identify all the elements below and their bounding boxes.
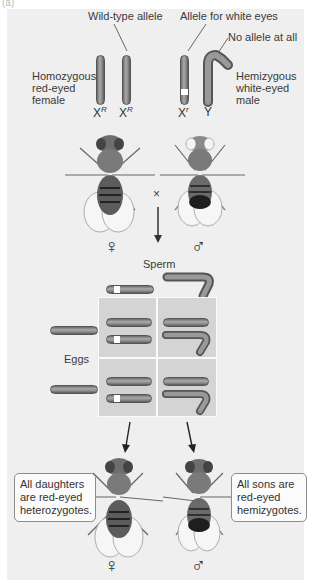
female-symbol-parent: ♀ — [104, 235, 119, 258]
male-symbol-parent: ♂ — [191, 235, 206, 258]
female-x-chromosome-2 — [122, 55, 131, 105]
white-eye-allele-band — [114, 286, 120, 293]
daughters-callout-line-2: are red-eyed — [20, 491, 90, 504]
sons-callout-line-2: red-eyed — [237, 491, 301, 504]
male-desc-line-1: Hemizygous — [236, 70, 297, 82]
white-eye-allele-band — [181, 89, 188, 95]
daughters-callout: All daughters are red-eyed heterozygotes… — [14, 473, 96, 522]
punnett-square — [98, 297, 217, 417]
male-chromosome-label-x: Xr — [178, 105, 189, 120]
white-eye-allele-band — [114, 395, 120, 402]
sperm-label: Sperm — [143, 258, 175, 270]
cross-arrow-icon — [153, 207, 163, 247]
male-fly-parent — [160, 130, 260, 240]
male-symbol-offspring: ♂ — [191, 554, 206, 577]
cell-2-1-xr-chromosome — [106, 394, 152, 403]
cell-2-2-y-chromosome — [162, 389, 212, 417]
male-desc-line-2: white-eyed — [236, 82, 297, 94]
female-desc-line-3: female — [32, 94, 96, 106]
cell-2-2-x-chromosome — [163, 377, 209, 386]
female-description: Homozygous red-eyed female — [32, 70, 96, 106]
cell-1-1-x-chromosome — [106, 318, 152, 327]
male-desc-line-3: male — [236, 94, 297, 106]
female-x-chromosome-1 — [96, 55, 105, 105]
male-description: Hemizygous white-eyed male — [236, 70, 297, 106]
sperm-x-chromosome — [106, 285, 154, 294]
white-eye-allele-band — [114, 336, 120, 343]
female-symbol-offspring: ♀ — [104, 554, 119, 577]
egg-x-chromosome-1 — [50, 326, 98, 335]
egg-x-chromosome-2 — [50, 385, 98, 394]
female-desc-line-1: Homozygous — [32, 70, 96, 82]
sons-callout: All sons are red-eyed hemizygotes. — [231, 473, 307, 522]
female-chromosome-label-2: XR — [119, 105, 133, 120]
eggs-label: Eggs — [64, 353, 89, 365]
male-y-chromosome — [200, 50, 240, 110]
cell-1-2-y-chromosome — [162, 330, 212, 358]
female-fly-parent — [60, 130, 160, 240]
sons-callout-line-1: All sons are — [237, 478, 301, 491]
daughters-callout-line-3: heterozygotes. — [20, 504, 90, 517]
cell-1-1-xr-chromosome — [106, 335, 152, 344]
cell-1-2-x-chromosome — [163, 318, 209, 327]
male-x-chromosome — [180, 55, 189, 105]
cell-2-1-x-chromosome — [106, 377, 152, 386]
sons-callout-line-3: hemizygotes. — [237, 504, 301, 517]
female-chromosome-label-1: XR — [93, 105, 107, 120]
female-desc-line-2: red-eyed — [32, 82, 96, 94]
cross-symbol: × — [153, 187, 160, 201]
daughters-callout-line-1: All daughters — [20, 478, 90, 491]
male-chromosome-label-y: Y — [204, 105, 212, 119]
